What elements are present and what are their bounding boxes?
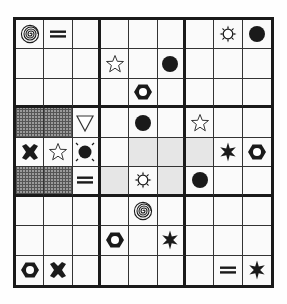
grid-cell-r6c7[interactable] xyxy=(186,167,214,196)
grid-cell-r9c7[interactable] xyxy=(186,256,214,285)
bold-x-icon xyxy=(20,142,40,162)
grid-cell-r9c4[interactable] xyxy=(101,256,129,285)
grid-cell-r2c1[interactable] xyxy=(16,49,44,78)
grid-cell-r2c7[interactable] xyxy=(186,49,214,78)
grid-cell-r8c7[interactable] xyxy=(186,226,214,255)
grid-cell-r8c2[interactable] xyxy=(44,226,72,255)
grid-cell-r3c5[interactable] xyxy=(129,79,157,108)
grid-cell-r1c1[interactable] xyxy=(16,20,44,49)
grid-cell-r7c2[interactable] xyxy=(44,197,72,226)
outline-star-icon xyxy=(105,54,125,74)
grid-cell-r3c3[interactable] xyxy=(73,79,101,108)
grid-cell-r9c2[interactable] xyxy=(44,256,72,285)
grid-cell-r1c4[interactable] xyxy=(101,20,129,49)
grid-cell-r6c9[interactable] xyxy=(243,167,271,196)
grid-cell-r1c5[interactable] xyxy=(129,20,157,49)
grid-cell-r7c7[interactable] xyxy=(186,197,214,226)
grid-cell-r7c1[interactable] xyxy=(16,197,44,226)
grid-cell-r3c6[interactable] xyxy=(158,79,186,108)
grid-cell-r8c8[interactable] xyxy=(214,226,242,255)
grid-cell-r3c4[interactable] xyxy=(101,79,129,108)
grid-cell-r9c8[interactable] xyxy=(214,256,242,285)
filled-circle-icon xyxy=(247,24,267,44)
grid-cell-r4c5[interactable] xyxy=(129,108,157,137)
grid-cell-r5c2[interactable] xyxy=(44,138,72,167)
grid-cell-r2c9[interactable] xyxy=(243,49,271,78)
grid-cell-r2c3[interactable] xyxy=(73,49,101,78)
grid-cell-r6c3[interactable] xyxy=(73,167,101,196)
grid-cell-r2c2[interactable] xyxy=(44,49,72,78)
hex-nut-icon xyxy=(247,142,267,162)
grid-cell-r5c1[interactable] xyxy=(16,138,44,167)
spiral-icon xyxy=(20,24,40,44)
filled-circle-icon xyxy=(190,170,210,190)
grid-cell-r7c5[interactable] xyxy=(129,197,157,226)
filled-circle-icon xyxy=(133,113,153,133)
spiral-icon xyxy=(133,201,153,221)
grid-cell-r5c9[interactable] xyxy=(243,138,271,167)
grid-cell-r1c3[interactable] xyxy=(73,20,101,49)
bold-x-icon xyxy=(48,260,68,280)
grid-cell-r2c6[interactable] xyxy=(158,49,186,78)
grid-cell-r5c5[interactable] xyxy=(129,138,157,167)
grid-cell-r4c9[interactable] xyxy=(243,108,271,137)
grid-cell-r6c5[interactable] xyxy=(129,167,157,196)
grid-cell-r8c3[interactable] xyxy=(73,226,101,255)
grid-cell-r1c2[interactable] xyxy=(44,20,72,49)
grid-cell-r3c2[interactable] xyxy=(44,79,72,108)
grid-cell-r4c8[interactable] xyxy=(214,108,242,137)
grid-cell-r1c8[interactable] xyxy=(214,20,242,49)
grid-cell-r4c3[interactable] xyxy=(73,108,101,137)
outline-star-icon xyxy=(48,142,68,162)
grid-cell-r4c4[interactable] xyxy=(101,108,129,137)
grid-cell-r5c4[interactable] xyxy=(101,138,129,167)
grid-cell-r8c1[interactable] xyxy=(16,226,44,255)
grid-cell-r1c7[interactable] xyxy=(186,20,214,49)
grid-cell-r6c4[interactable] xyxy=(101,167,129,196)
grid-cell-r5c7[interactable] xyxy=(186,138,214,167)
grid-cell-r6c6[interactable] xyxy=(158,167,186,196)
grid-cell-r2c5[interactable] xyxy=(129,49,157,78)
grid-cell-r8c4[interactable] xyxy=(101,226,129,255)
grid-cell-r4c2[interactable] xyxy=(44,108,72,137)
grid-cell-r7c8[interactable] xyxy=(214,197,242,226)
grid-cell-r2c4[interactable] xyxy=(101,49,129,78)
equals-icon xyxy=(218,260,238,280)
grid-cell-r7c9[interactable] xyxy=(243,197,271,226)
grid-cell-r7c6[interactable] xyxy=(158,197,186,226)
grid-cell-r8c6[interactable] xyxy=(158,226,186,255)
grid-cell-r9c5[interactable] xyxy=(129,256,157,285)
hex-nut-icon xyxy=(133,82,153,102)
down-triangle-icon xyxy=(75,113,95,133)
grid-cell-r1c6[interactable] xyxy=(158,20,186,49)
six-point-star-icon xyxy=(160,230,180,250)
grid-cell-r7c3[interactable] xyxy=(73,197,101,226)
grid-cell-r5c3[interactable] xyxy=(73,138,101,167)
grid-cell-r4c1[interactable] xyxy=(16,108,44,137)
grid-cell-r9c6[interactable] xyxy=(158,256,186,285)
grid-cell-r9c1[interactable] xyxy=(16,256,44,285)
grid-cell-r3c9[interactable] xyxy=(243,79,271,108)
filled-circle-icon xyxy=(160,54,180,74)
sun-icon xyxy=(218,24,238,44)
grid-cell-r4c6[interactable] xyxy=(158,108,186,137)
equals-icon xyxy=(75,170,95,190)
grid-cell-r7c4[interactable] xyxy=(101,197,129,226)
grid-cell-r6c8[interactable] xyxy=(214,167,242,196)
grid-cell-r6c2[interactable] xyxy=(44,167,72,196)
grid-cell-r3c8[interactable] xyxy=(214,79,242,108)
grid-cell-r9c3[interactable] xyxy=(73,256,101,285)
grid-cell-r6c1[interactable] xyxy=(16,167,44,196)
grid-cell-r2c8[interactable] xyxy=(214,49,242,78)
grid-cell-r5c8[interactable] xyxy=(214,138,242,167)
equals-icon xyxy=(48,24,68,44)
grid-cell-r4c7[interactable] xyxy=(186,108,214,137)
hex-nut-icon xyxy=(105,230,125,250)
grid-cell-r5c6[interactable] xyxy=(158,138,186,167)
grid-cell-r1c9[interactable] xyxy=(243,20,271,49)
grid-cell-r3c7[interactable] xyxy=(186,79,214,108)
grid-cell-r8c5[interactable] xyxy=(129,226,157,255)
grid-cell-r9c9[interactable] xyxy=(243,256,271,285)
grid-cell-r8c9[interactable] xyxy=(243,226,271,255)
grid-cell-r3c1[interactable] xyxy=(16,79,44,108)
